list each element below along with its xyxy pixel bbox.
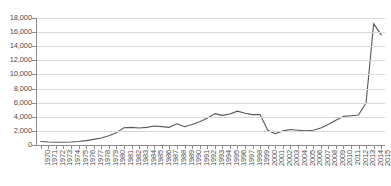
gridline <box>37 89 385 90</box>
x-tickmark <box>116 146 117 149</box>
x-tickmark <box>139 146 140 149</box>
x-tickmark <box>147 146 148 149</box>
y-tick-label: 2,000 <box>14 127 32 135</box>
x-tickmark <box>290 146 291 149</box>
y-tickmark <box>32 74 36 75</box>
x-tickmark <box>162 146 163 149</box>
x-tickmark <box>359 146 360 149</box>
x-tickmark <box>215 146 216 149</box>
x-tickmark <box>200 146 201 149</box>
y-tick-label: 18,000 <box>10 14 32 22</box>
x-tickmark <box>328 146 329 149</box>
x-tickmark <box>222 146 223 149</box>
x-tickmark <box>268 146 269 149</box>
y-tickmark <box>32 117 36 118</box>
x-tickmark <box>253 146 254 149</box>
x-tickmark <box>177 146 178 149</box>
y-tickmark <box>32 131 36 132</box>
x-tickmark <box>71 146 72 149</box>
x-tickmark <box>313 146 314 149</box>
y-tickmark <box>32 32 36 33</box>
x-tick-label: 2015 <box>384 150 391 166</box>
x-tickmark <box>306 146 307 149</box>
x-tickmark <box>154 146 155 149</box>
gridline <box>37 46 385 47</box>
x-tickmark <box>321 146 322 149</box>
x-tickmark <box>63 146 64 149</box>
x-tickmark <box>230 146 231 149</box>
x-tickmark <box>374 146 375 149</box>
gridline <box>37 74 385 75</box>
x-axis: 1970197119721973197419751976197719781979… <box>0 150 391 186</box>
x-tickmark <box>109 146 110 149</box>
x-tickmark <box>94 146 95 149</box>
x-tickmark <box>336 146 337 149</box>
x-tickmark <box>381 146 382 149</box>
x-tickmark <box>124 146 125 149</box>
gridline <box>37 60 385 61</box>
gridline <box>37 103 385 104</box>
x-tickmark <box>79 146 80 149</box>
x-tickmark <box>298 146 299 149</box>
x-tickmark <box>275 146 276 149</box>
gridline <box>37 32 385 33</box>
x-tickmark <box>192 146 193 149</box>
y-tick-label: 12,000 <box>10 57 32 65</box>
data-series-line <box>37 18 385 145</box>
y-tick-label: 14,000 <box>10 42 32 50</box>
x-tickmark <box>245 146 246 149</box>
y-tick-label: 8,000 <box>14 85 32 93</box>
x-tickmark <box>366 146 367 149</box>
x-tickmark <box>132 146 133 149</box>
x-tickmark <box>260 146 261 149</box>
plot-area <box>37 18 385 145</box>
x-tickmark <box>41 146 42 149</box>
line-chart: 02,0004,0006,0008,00010,00012,00014,0001… <box>0 0 391 186</box>
x-tickmark <box>48 146 49 149</box>
x-tickmark <box>343 146 344 149</box>
y-tickmark <box>32 46 36 47</box>
gridline <box>37 117 385 118</box>
y-tickmark <box>32 89 36 90</box>
gridline <box>37 131 385 132</box>
x-tickmark <box>351 146 352 149</box>
x-tickmark <box>101 146 102 149</box>
y-tick-label: 10,000 <box>10 71 32 79</box>
y-tickmark <box>32 103 36 104</box>
y-tick-label: 6,000 <box>14 99 32 107</box>
x-tickmark <box>56 146 57 149</box>
x-tickmark <box>207 146 208 149</box>
y-tickmark <box>32 145 36 146</box>
gridline <box>37 18 385 19</box>
x-tickmark <box>237 146 238 149</box>
y-tickmark <box>32 60 36 61</box>
y-tick-label: 4,000 <box>14 113 32 121</box>
x-tickmark <box>283 146 284 149</box>
x-tickmark <box>86 146 87 149</box>
x-tickmark <box>185 146 186 149</box>
y-tick-label: 16,000 <box>10 28 32 36</box>
y-tickmark <box>32 18 36 19</box>
x-axis-line <box>36 145 385 146</box>
x-tickmark <box>169 146 170 149</box>
